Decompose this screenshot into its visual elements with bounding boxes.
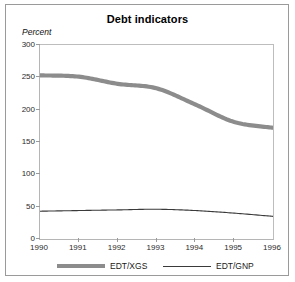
chart-figure: Debt indicators Percent 0501001502002503…	[0, 0, 295, 282]
x-tick-label: 1993	[136, 243, 176, 252]
x-tick-mark	[117, 238, 118, 242]
x-tick-mark	[78, 238, 79, 242]
plot-area	[39, 44, 274, 240]
y-tick-label: 50	[5, 201, 35, 210]
x-tick-mark	[194, 238, 195, 242]
x-tick-mark	[156, 238, 157, 242]
y-tick-label: 200	[5, 104, 35, 113]
series-line-edt-xgs	[40, 75, 273, 127]
y-tick-mark	[36, 76, 40, 77]
legend-swatch-thin-icon	[163, 266, 211, 267]
legend-item-edt-xgs: EDT/XGS	[57, 259, 147, 273]
x-tick-label: 1994	[174, 243, 214, 252]
legend-item-edt-gnp: EDT/GNP	[163, 259, 254, 273]
y-tick-mark	[36, 109, 40, 110]
y-tick-label: 100	[5, 169, 35, 178]
chart-legend: EDT/XGS EDT/GNP	[5, 259, 289, 275]
x-tick-label: 1990	[19, 243, 59, 252]
x-tick-label: 1991	[58, 243, 98, 252]
legend-label-edt-gnp: EDT/GNP	[216, 261, 254, 271]
x-tick-label: 1996	[252, 243, 292, 252]
y-tick-label: 300	[5, 40, 35, 49]
y-axis-unit-label: Percent	[22, 27, 51, 37]
plot-lines	[40, 45, 273, 239]
x-tick-mark	[233, 238, 234, 242]
y-tick-label: 150	[5, 137, 35, 146]
y-tick-mark	[36, 44, 40, 45]
x-tick-label: 1995	[213, 243, 253, 252]
y-tick-mark	[36, 141, 40, 142]
x-tick-label: 1992	[97, 243, 137, 252]
y-tick-mark	[36, 238, 40, 239]
y-tick-label: 0	[5, 234, 35, 243]
legend-swatch-thick-icon	[57, 264, 105, 268]
y-tick-label: 250	[5, 72, 35, 81]
y-tick-mark	[36, 173, 40, 174]
legend-label-edt-xgs: EDT/XGS	[110, 261, 147, 271]
chart-title: Debt indicators	[0, 13, 295, 25]
series-line-edt-gnp	[40, 209, 273, 216]
y-tick-mark	[36, 206, 40, 207]
